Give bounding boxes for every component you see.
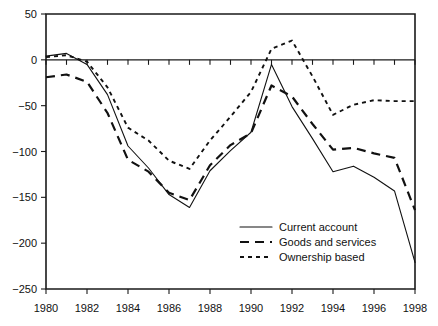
series-line-goods-and-services <box>46 75 415 211</box>
chart-legend: Current accountGoods and servicesOwnersh… <box>240 221 377 263</box>
y-tick-label: −150 <box>12 191 37 203</box>
legend-label: Current account <box>279 221 357 233</box>
y-tick-label: −200 <box>12 237 37 249</box>
x-tick-label: 1996 <box>362 302 386 314</box>
x-tick-label: 1988 <box>198 302 222 314</box>
x-tick-label: 1994 <box>321 302 345 314</box>
line-chart: 500−50−100−150−200−250 19801982198419861… <box>0 0 438 326</box>
x-tick-label: 1982 <box>75 302 99 314</box>
x-axis-labels: 1980198219841986198819901992199419961998 <box>34 302 427 314</box>
y-axis-labels: 500−50−100−150−200−250 <box>12 8 37 295</box>
x-tick-label: 1986 <box>157 302 181 314</box>
x-tick-label: 1980 <box>34 302 58 314</box>
y-tick-label: 50 <box>25 8 37 20</box>
chart-container: 500−50−100−150−200−250 19801982198419861… <box>0 0 438 326</box>
legend-label: Ownership based <box>279 251 365 263</box>
y-tick-label: −100 <box>12 146 37 158</box>
y-tick-label: −50 <box>18 100 37 112</box>
x-tick-label: 1990 <box>239 302 263 314</box>
x-tick-label: 1998 <box>403 302 427 314</box>
legend-label: Goods and services <box>279 236 377 248</box>
x-tick-label: 1992 <box>280 302 304 314</box>
y-tick-label: 0 <box>31 54 37 66</box>
zero-axis-line <box>46 60 415 65</box>
x-tick-label: 1984 <box>116 302 140 314</box>
series-line-current-account <box>46 53 415 262</box>
y-tick-label: −250 <box>12 283 37 295</box>
series-group <box>46 41 415 263</box>
